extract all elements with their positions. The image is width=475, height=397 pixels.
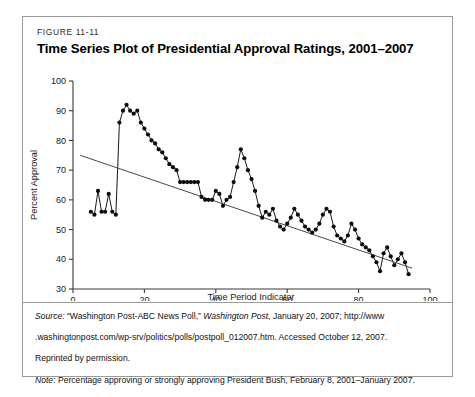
data-point bbox=[239, 147, 243, 151]
source-text-1: “Washington Post-ABC News Poll,” bbox=[65, 311, 204, 321]
data-point bbox=[299, 219, 303, 223]
data-point bbox=[374, 260, 378, 264]
data-point bbox=[253, 189, 257, 193]
trend-line bbox=[80, 155, 412, 268]
data-point bbox=[360, 242, 364, 246]
data-point bbox=[267, 213, 271, 217]
figure-container: FIGURE 11-11 Time Series Plot of Preside… bbox=[22, 16, 453, 377]
chart-plot-area: 30405060708090100 020406080100 Percent A… bbox=[23, 75, 452, 301]
data-point bbox=[389, 254, 393, 258]
data-point bbox=[89, 210, 93, 214]
data-point bbox=[257, 204, 261, 208]
data-point bbox=[399, 251, 403, 255]
data-point bbox=[117, 121, 121, 125]
data-point bbox=[271, 207, 275, 211]
source-label: Source: bbox=[35, 311, 65, 321]
x-tick-label: 20 bbox=[139, 295, 149, 301]
source-caption: Source: “Washington Post-ABC News Poll,”… bbox=[35, 310, 440, 323]
data-point bbox=[274, 219, 278, 223]
caption-block: Source: “Washington Post-ABC News Poll,”… bbox=[23, 302, 452, 386]
x-tick-label: 80 bbox=[354, 295, 364, 301]
data-point bbox=[364, 245, 368, 249]
x-axis-title: Time Period Indicator bbox=[208, 292, 295, 301]
data-point bbox=[246, 168, 250, 172]
data-point bbox=[171, 165, 175, 169]
data-point bbox=[189, 180, 193, 184]
data-point bbox=[139, 121, 143, 125]
data-point bbox=[339, 236, 343, 240]
data-point bbox=[142, 126, 146, 130]
source-caption-permission: Reprinted by permission. bbox=[35, 352, 440, 365]
data-point bbox=[260, 216, 264, 220]
data-point bbox=[210, 198, 214, 202]
data-point bbox=[232, 180, 236, 184]
data-point bbox=[296, 213, 300, 217]
data-point bbox=[357, 236, 361, 240]
data-point bbox=[289, 216, 293, 220]
data-point bbox=[392, 263, 396, 267]
data-point bbox=[185, 180, 189, 184]
data-point bbox=[285, 222, 289, 226]
data-point bbox=[192, 180, 196, 184]
data-point bbox=[132, 112, 136, 116]
source-caption-url: .washingtonpost.com/wp-srv/politics/poll… bbox=[35, 331, 440, 344]
data-point bbox=[385, 245, 389, 249]
approval-series-line bbox=[91, 105, 409, 274]
data-point bbox=[146, 132, 150, 136]
y-tick-label: 90 bbox=[56, 106, 66, 116]
data-point bbox=[317, 222, 321, 226]
data-point bbox=[114, 213, 118, 217]
y-axis-ticks: 30405060708090100 bbox=[51, 76, 73, 294]
data-point bbox=[107, 192, 111, 196]
y-tick-label: 100 bbox=[51, 76, 66, 86]
data-point bbox=[403, 260, 407, 264]
data-point bbox=[278, 225, 282, 229]
note-caption: Note: Percentage approving or strongly a… bbox=[35, 374, 440, 387]
y-tick-label: 70 bbox=[56, 165, 66, 175]
y-tick-label: 80 bbox=[56, 136, 66, 146]
source-publication: Washington Post bbox=[203, 311, 268, 321]
data-point bbox=[167, 162, 171, 166]
data-point bbox=[164, 156, 168, 160]
data-point bbox=[332, 225, 336, 229]
data-point bbox=[149, 138, 153, 142]
data-point bbox=[203, 198, 207, 202]
data-point bbox=[307, 227, 311, 231]
data-point bbox=[321, 213, 325, 217]
data-point bbox=[381, 251, 385, 255]
y-tick-label: 30 bbox=[56, 284, 66, 294]
data-point bbox=[324, 207, 328, 211]
note-text: : Percentage approving or strongly appro… bbox=[53, 375, 415, 385]
data-point bbox=[264, 210, 268, 214]
data-point bbox=[124, 103, 128, 107]
data-point bbox=[249, 177, 253, 181]
data-point bbox=[342, 239, 346, 243]
data-point bbox=[346, 233, 350, 237]
data-point bbox=[157, 147, 161, 151]
data-point bbox=[217, 192, 221, 196]
data-point bbox=[196, 180, 200, 184]
data-point bbox=[221, 204, 225, 208]
figure-number-label: FIGURE 11-11 bbox=[37, 27, 99, 37]
data-point bbox=[367, 248, 371, 252]
approval-series-markers bbox=[89, 103, 411, 277]
data-point bbox=[135, 109, 139, 113]
data-point bbox=[182, 180, 186, 184]
figure-title: Time Series Plot of Presidential Approva… bbox=[37, 41, 437, 56]
data-point bbox=[349, 222, 353, 226]
data-point bbox=[214, 189, 218, 193]
note-label: Note bbox=[35, 375, 53, 385]
data-point bbox=[110, 210, 114, 214]
y-tick-label: 50 bbox=[56, 225, 66, 235]
data-point bbox=[178, 180, 182, 184]
x-tick-label: 0 bbox=[70, 295, 75, 301]
time-series-chart: 30405060708090100 020406080100 Percent A… bbox=[23, 75, 452, 301]
data-point bbox=[314, 227, 318, 231]
y-tick-label: 60 bbox=[56, 195, 66, 205]
data-point bbox=[378, 269, 382, 273]
y-axis-title: Percent Approval bbox=[29, 150, 39, 220]
data-point bbox=[310, 230, 314, 234]
data-point bbox=[199, 195, 203, 199]
data-point bbox=[103, 210, 107, 214]
data-point bbox=[303, 225, 307, 229]
